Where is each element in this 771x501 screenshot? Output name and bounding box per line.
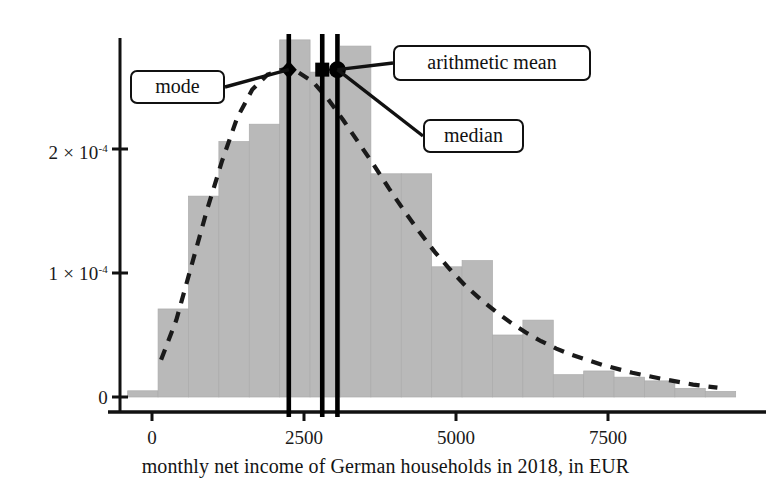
histogram-bar [371, 174, 401, 397]
callout-median-label: median [444, 125, 503, 145]
histogram-bar [675, 388, 705, 397]
histogram-bar [584, 371, 614, 397]
histogram-bar [553, 375, 583, 397]
callout-median: median [423, 119, 524, 153]
xtick-label-5000: 5000 [411, 427, 501, 449]
xtick-label-0: 0 [122, 427, 182, 449]
histogram-bar [705, 391, 735, 397]
histogram-bar [280, 40, 310, 397]
histogram-bar [644, 381, 674, 397]
marker-median [315, 63, 329, 77]
histogram-bar [432, 267, 462, 397]
histogram-figure: 2 × 10-4 1 × 10-4 0 0 2500 5000 7500 mon… [0, 0, 771, 501]
histogram-bar [249, 124, 279, 397]
leader-mode [225, 70, 289, 87]
histogram-bar [492, 335, 522, 397]
histogram-bar [340, 46, 370, 397]
histogram-bar [614, 377, 644, 397]
xtick-label-2500: 2500 [259, 427, 349, 449]
chart-canvas [0, 0, 771, 501]
histogram-bar [128, 391, 158, 397]
xtick-label-7500: 7500 [563, 427, 653, 449]
callout-mode-label: mode [155, 76, 199, 96]
ytick-label-2e-4: 2 × 10-4 [10, 142, 108, 164]
histogram-bar [462, 261, 492, 397]
callout-arithmetic-mean-label: arithmetic mean [427, 52, 556, 72]
ytick-label-1e-4: 1 × 10-4 [10, 263, 108, 285]
callout-mode: mode [130, 70, 225, 104]
histogram-bar [401, 174, 431, 397]
callout-arithmetic-mean: arithmetic mean [393, 45, 591, 81]
ytick-label-0: 0 [10, 387, 108, 409]
x-axis-title: monthly net income of German households … [0, 455, 771, 478]
histogram-bar [219, 142, 249, 397]
